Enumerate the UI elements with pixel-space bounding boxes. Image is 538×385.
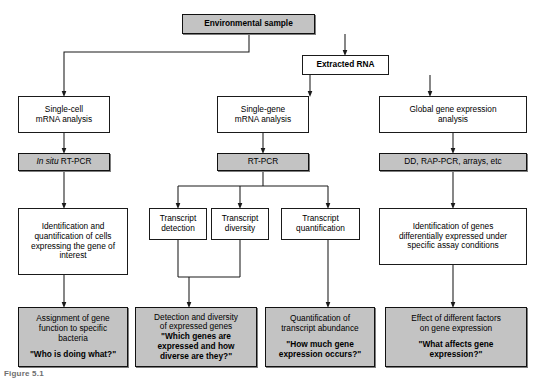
node-single-gene-text: Single-gene mRNA analysis bbox=[235, 105, 291, 125]
figure-caption: Figure 5.1 bbox=[4, 369, 44, 378]
node-single-cell-mrna-analysis[interactable]: Single-cell mRNA analysis bbox=[18, 96, 110, 133]
node-identification-cells-line4: interest bbox=[31, 251, 115, 261]
node-quantification-transcript-text: Quantification of transcript abundance "… bbox=[279, 314, 361, 359]
node-extracted-rna-label: Extracted RNA bbox=[316, 60, 374, 70]
node-assignment-gene-function[interactable]: Assignment of gene function to specific … bbox=[18, 307, 128, 367]
node-global-expr-text: Global gene expression analysis bbox=[409, 105, 496, 125]
node-global-expr-line2: analysis bbox=[409, 115, 496, 125]
node-transcript-detection-text: Transcript detection bbox=[160, 214, 197, 234]
node-effect-factors-question2: expression?" bbox=[411, 350, 501, 360]
node-transcript-quantification-text: Transcript quantification bbox=[296, 214, 345, 234]
node-assignment-gene-line3: bacteria bbox=[30, 334, 116, 344]
node-identification-genes-line3: specific assay conditions bbox=[399, 241, 507, 251]
node-identification-genes-text: Identification of genes differentially e… bbox=[399, 222, 507, 251]
node-single-cell-text: Single-cell mRNA analysis bbox=[36, 105, 92, 125]
node-global-gene-expression-analysis[interactable]: Global gene expression analysis bbox=[379, 96, 527, 133]
node-detection-diversity-expressed-genes[interactable]: Detection and diversity of expressed gen… bbox=[135, 307, 257, 367]
node-rt-pcr-label: RT-PCR bbox=[248, 157, 279, 167]
node-dd-rap-pcr-label: DD, RAP-PCR, arrays, etc bbox=[404, 157, 501, 167]
node-detection-diversity-question3: diverse are they?" bbox=[154, 352, 238, 362]
node-assignment-gene-question: "Who is doing what?" bbox=[30, 350, 116, 360]
node-single-cell-line2: mRNA analysis bbox=[36, 115, 92, 125]
node-transcript-quantification[interactable]: Transcript quantification bbox=[281, 208, 360, 240]
node-environmental-sample-label: Environmental sample bbox=[204, 19, 293, 29]
node-single-gene-mrna-analysis[interactable]: Single-gene mRNA analysis bbox=[217, 96, 309, 133]
node-transcript-detection[interactable]: Transcript detection bbox=[149, 208, 207, 240]
node-assignment-gene-text: Assignment of gene function to specific … bbox=[30, 314, 116, 359]
node-in-situ-rt-pcr-label: In situ RT-PCR bbox=[36, 157, 91, 167]
node-in-situ-plain: RT-PCR bbox=[59, 156, 92, 166]
node-effect-different-factors[interactable]: Effect of different factors on gene expr… bbox=[385, 307, 527, 367]
node-transcript-diversity-text: Transcript diversity bbox=[222, 214, 259, 234]
node-transcript-detection-line2: detection bbox=[160, 224, 197, 234]
node-identification-genes-differential[interactable]: Identification of genes differentially e… bbox=[379, 208, 527, 265]
node-quantification-transcript-abundance[interactable]: Quantification of transcript abundance "… bbox=[265, 307, 375, 367]
node-identification-cells-text: Identification and quantification of cel… bbox=[31, 222, 115, 261]
node-transcript-diversity[interactable]: Transcript diversity bbox=[211, 208, 269, 240]
node-rt-pcr[interactable]: RT-PCR bbox=[217, 153, 309, 171]
node-quantification-transcript-line2: transcript abundance bbox=[279, 324, 361, 334]
node-transcript-quantification-line2: quantification bbox=[296, 224, 345, 234]
node-single-gene-line2: mRNA analysis bbox=[235, 115, 291, 125]
node-quantification-transcript-question2: expression occurs?" bbox=[279, 350, 361, 360]
node-in-situ-rt-pcr[interactable]: In situ RT-PCR bbox=[18, 153, 110, 171]
flowchart-canvas: Environmental sample Extracted RNA Singl… bbox=[0, 0, 538, 385]
node-detection-diversity-text: Detection and diversity of expressed gen… bbox=[154, 313, 238, 362]
node-dd-rap-pcr-arrays[interactable]: DD, RAP-PCR, arrays, etc bbox=[379, 153, 527, 171]
node-effect-factors-line2: on gene expression bbox=[411, 324, 501, 334]
node-identification-quantification-cells[interactable]: Identification and quantification of cel… bbox=[18, 208, 128, 275]
node-extracted-rna[interactable]: Extracted RNA bbox=[302, 55, 389, 75]
node-in-situ-italic: In situ bbox=[36, 156, 58, 166]
node-environmental-sample[interactable]: Environmental sample bbox=[182, 14, 315, 34]
node-transcript-diversity-line2: diversity bbox=[222, 224, 259, 234]
node-effect-factors-text: Effect of different factors on gene expr… bbox=[411, 314, 501, 359]
